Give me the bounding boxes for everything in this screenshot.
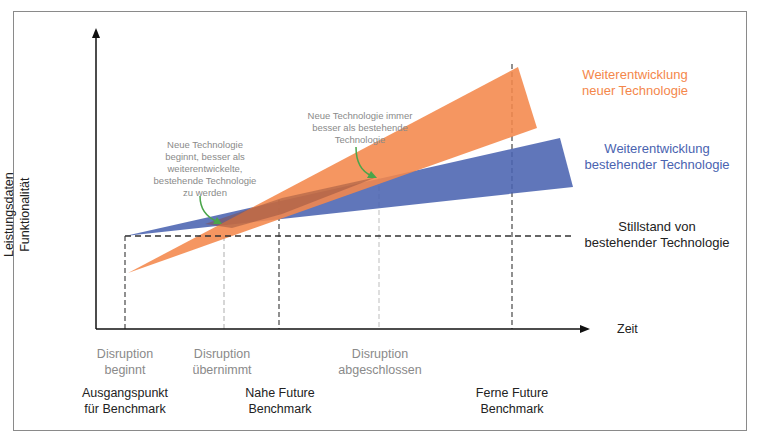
annotation-line: weiterentwickelte, <box>140 163 270 175</box>
label-line: neuer Technologie <box>560 83 710 99</box>
x-axis-arrowhead-icon <box>580 325 590 333</box>
label-stagnation: Stillstand von bestehender Technologie <box>582 219 732 252</box>
phase-line: beginnt <box>75 363 175 379</box>
benchmark-far-future: Ferne Future Benchmark <box>462 386 562 417</box>
label-line: Weiterentwicklung <box>582 141 732 157</box>
annotation-line: beginnt, besser als <box>140 151 270 163</box>
annotation-line: zu werden <box>140 187 270 199</box>
benchmark-line: Benchmark <box>462 402 562 418</box>
annotation-line: Neue Technologie <box>140 139 270 151</box>
annotation-line: Neue Technologie immer <box>290 110 430 122</box>
label-line: Stillstand von <box>582 219 732 235</box>
benchmark-line: Ausgangspunkt <box>70 386 180 402</box>
label-line: bestehender Technologie <box>582 157 732 173</box>
benchmark-line: Benchmark <box>230 402 330 418</box>
benchmark-line: Nahe Future <box>230 386 330 402</box>
label-line: bestehender Technologie <box>582 235 732 251</box>
phase-disruption-complete: Disruption abgeschlossen <box>330 347 430 378</box>
y-axis-label-line1: Leistungsdaten <box>2 155 18 275</box>
benchmark-line: für Benchmark <box>70 402 180 418</box>
phase-line: Disruption <box>172 347 272 363</box>
annotation-line: besser als bestehende <box>290 122 430 134</box>
label-new-technology: Weiterentwicklung neuer Technologie <box>560 67 710 100</box>
annotation-line: Technologie <box>290 134 430 146</box>
annotation-line: bestehende Technologie <box>140 175 270 187</box>
benchmark-near-future: Nahe Future Benchmark <box>230 386 330 417</box>
phase-line: übernimmt <box>172 363 272 379</box>
phase-line: Disruption <box>75 347 175 363</box>
benchmark-starting-point: Ausgangspunkt für Benchmark <box>70 386 180 417</box>
phase-line: Disruption <box>330 347 430 363</box>
phase-disruption-begins: Disruption beginnt <box>75 347 175 378</box>
x-axis-label: Zeit <box>617 322 638 338</box>
phase-disruption-takes-over: Disruption übernimmt <box>172 347 272 378</box>
annotation-first-crossing: Neue Technologie beginnt, besser als wei… <box>140 139 270 198</box>
phase-line: abgeschlossen <box>330 363 430 379</box>
label-line: Weiterentwicklung <box>560 67 710 83</box>
y-axis-label: Leistungsdaten Funktionalität <box>2 155 33 275</box>
benchmark-line: Ferne Future <box>462 386 562 402</box>
y-axis-label-line2: Funktionalität <box>18 155 34 275</box>
label-existing-technology: Weiterentwicklung bestehender Technologi… <box>582 141 732 174</box>
annotation-second-crossing: Neue Technologie immer besser als besteh… <box>290 110 430 146</box>
y-axis-arrowhead-icon <box>92 28 100 38</box>
